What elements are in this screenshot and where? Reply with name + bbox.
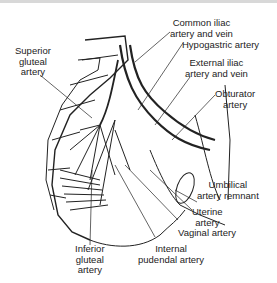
label-inferior-gluteal: Inferior gluteal artery [75,244,105,276]
label-umbilical: Umbilical artery remnant [197,180,259,201]
label-external-iliac: External iliac artery and vein [185,58,248,79]
label-obturator: Obturator artery [215,89,255,110]
label-vaginal: Vaginal artery [178,228,236,239]
label-internal-pudendal: Internal pudendal artery [138,244,204,265]
label-common-iliac: Common iliac artery and vein [170,18,233,39]
label-uterine: Uterine artery [192,207,223,228]
label-hypogastric: Hypogastric artery [182,40,259,51]
label-superior-gluteal: Superior gluteal artery [15,46,51,78]
